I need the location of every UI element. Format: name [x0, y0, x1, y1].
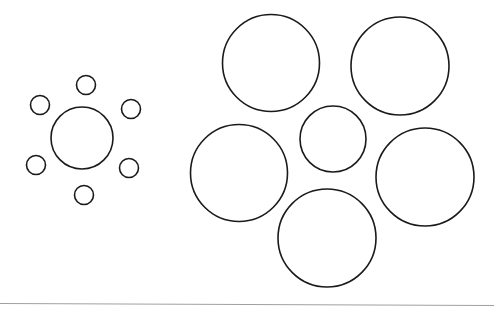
surround-circle: [75, 186, 94, 205]
surround-circle: [191, 125, 288, 222]
small-surround-group: [27, 76, 141, 205]
surround-circle: [77, 76, 96, 95]
surround-circle: [223, 15, 320, 112]
bottom-divider-line: [0, 304, 494, 306]
surround-circle: [351, 17, 449, 115]
surround-circle: [122, 100, 141, 119]
surround-circle: [120, 159, 139, 178]
ebbinghaus-diagram: [0, 0, 494, 309]
surround-circle: [31, 96, 50, 115]
surround-circle: [376, 128, 474, 226]
surround-circle: [278, 189, 376, 287]
diagram-canvas: [0, 0, 494, 309]
center-circle: [300, 106, 366, 172]
large-surround-group: [191, 15, 475, 288]
surround-circle: [27, 156, 46, 175]
center-circle: [51, 107, 113, 169]
